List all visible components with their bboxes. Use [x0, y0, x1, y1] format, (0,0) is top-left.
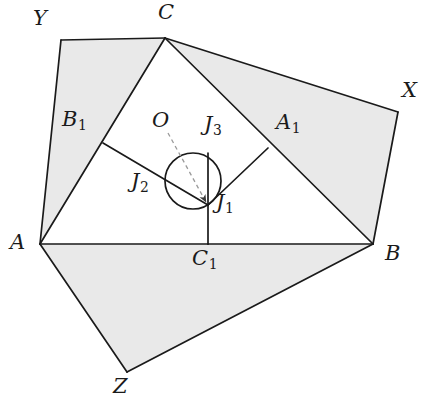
label-J1: J1	[216, 192, 233, 213]
geometry-canvas	[0, 0, 428, 413]
label-C: C	[158, 2, 174, 23]
label-C1: C1	[192, 248, 217, 269]
label-B1: B1	[62, 109, 86, 130]
label-Y: Y	[33, 8, 47, 29]
geometry-diagram: Y C X B1 O J3 A1 J2 J1 A C1 B Z	[0, 0, 428, 413]
label-A1: A1	[276, 112, 300, 133]
label-B: B	[385, 243, 400, 264]
label-J2: J2	[131, 171, 148, 192]
label-Z: Z	[113, 376, 128, 397]
label-O: O	[152, 110, 169, 131]
label-J3: J3	[204, 114, 221, 135]
label-A: A	[10, 232, 25, 253]
label-X: X	[402, 80, 417, 101]
